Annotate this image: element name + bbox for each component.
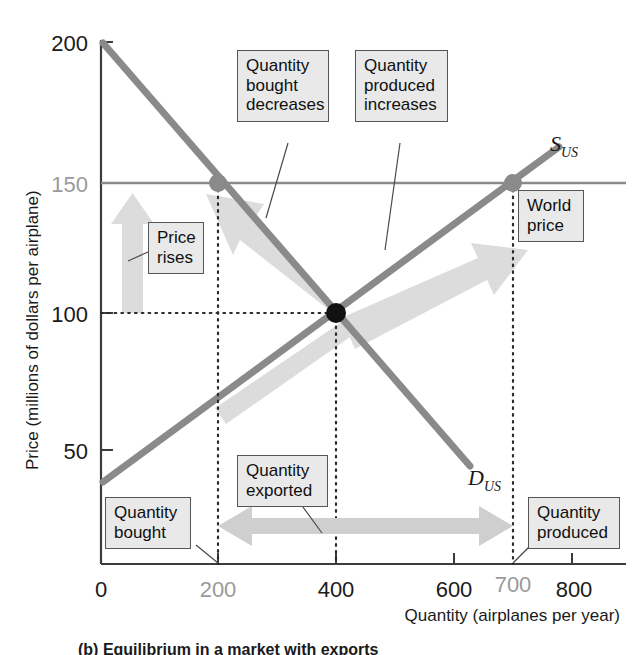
- leader-quantity-produced-increases: [385, 143, 400, 250]
- callout-world-price: World price: [518, 190, 584, 242]
- x-tick-label-600: 600: [436, 577, 473, 602]
- demand-curve-label: DUS: [467, 465, 501, 494]
- callout-quantity-produced-increases: Quantity produced increases: [355, 50, 448, 122]
- x-tick-label-800: 800: [556, 577, 593, 602]
- callout-quantity-bought: Quantity bought: [105, 497, 191, 549]
- quantity-bought-point: [209, 174, 227, 192]
- quantity-produced-increases-arrow: [341, 243, 528, 349]
- callout-price-rises: Price rises: [148, 222, 204, 274]
- callout-quantity-bought-decreases: Quantity bought decreases: [237, 50, 329, 122]
- y-tick-label-50: 50: [64, 439, 88, 464]
- x-tick-label-0: 0: [95, 577, 107, 602]
- x-tick-label-700: 700: [495, 572, 532, 597]
- x-tick-label-200: 200: [200, 577, 237, 602]
- x-axis-title: Quantity (airplanes per year): [405, 606, 620, 625]
- y-tick-label-150: 150: [51, 172, 88, 197]
- y-tick-label-100: 100: [51, 302, 88, 327]
- y-axis-title: Price (millions of dollars per airplane): [23, 190, 42, 470]
- quantity-exported-span-arrow: [218, 506, 513, 546]
- leader-quantity-bought: [196, 545, 218, 563]
- callout-quantity-produced: Quantity produced: [528, 497, 620, 549]
- supply-curve-label: SUS: [550, 131, 578, 160]
- x-tick-label-400: 400: [318, 577, 355, 602]
- figure-caption: (b) Equilibrium in a market with exports: [78, 641, 618, 655]
- equilibrium-point: [326, 303, 346, 323]
- callout-quantity-exported: Quantity exported: [237, 455, 328, 507]
- y-tick-label-200: 200: [51, 31, 88, 56]
